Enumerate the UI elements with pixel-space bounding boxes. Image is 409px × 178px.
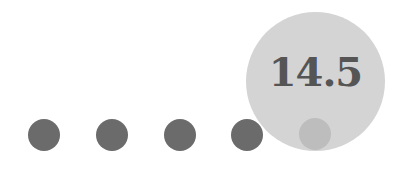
slider-step-1[interactable]: [28, 119, 60, 151]
slider-step-2[interactable]: [96, 119, 128, 151]
slider-step-5-active[interactable]: [299, 118, 331, 150]
slider-step-4[interactable]: [231, 119, 263, 151]
slider-step-3[interactable]: [164, 119, 196, 151]
slider-value: 14.5: [246, 48, 385, 95]
